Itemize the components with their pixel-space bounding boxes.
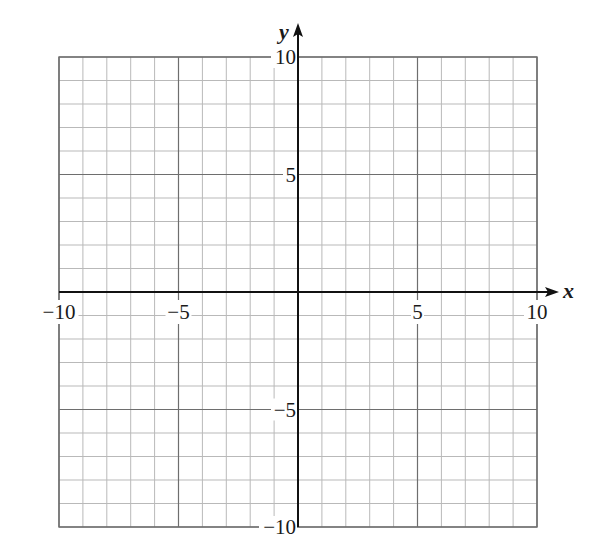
x-tick-labels: −10−5510 [40, 300, 551, 324]
x-axis-label: x [562, 278, 574, 303]
x-tick-label: 10 [527, 300, 548, 324]
y-tick-label: −5 [274, 398, 296, 422]
coordinate-plane: x y −10−5510 105−5−10 [0, 0, 610, 554]
y-tick-label: 5 [286, 163, 297, 187]
y-tick-label: −10 [263, 515, 296, 539]
y-axis-label: y [276, 19, 289, 44]
x-tick-label: 5 [412, 300, 423, 324]
x-tick-label: −10 [43, 300, 76, 324]
x-tick-label: −5 [167, 300, 189, 324]
y-tick-label: 10 [275, 45, 296, 69]
